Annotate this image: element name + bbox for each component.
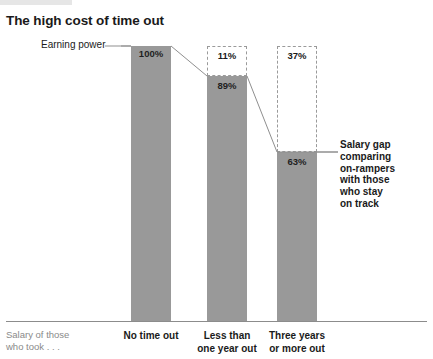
salary-gap-annotation-line-2: comparing — [340, 151, 432, 163]
bar-gap-value-three-years-or-more: 37% — [277, 50, 317, 61]
salary-gap-annotation-line-5: who stay — [340, 186, 432, 198]
bar-value-less-than-one-year: 89% — [207, 80, 247, 91]
category-label-three-years-or-more-line-2: or more out — [249, 343, 345, 356]
bar-gap-value-less-than-one-year: 11% — [207, 50, 247, 61]
category-label-three-years-or-more-line-1: Three years — [249, 330, 345, 343]
category-label-three-years-or-more: Three years or more out — [249, 330, 345, 355]
bar-value-no-time-out: 100% — [131, 48, 171, 59]
salary-gap-annotation-line-4: with those — [340, 174, 432, 186]
salary-gap-annotation-line-3: on-rampers — [340, 163, 432, 175]
bar-value-three-years-or-more: 63% — [277, 156, 317, 167]
salary-gap-annotation: Salary gap comparing on-rampers with tho… — [340, 139, 432, 210]
axis-baseline — [6, 321, 427, 322]
salary-gap-annotation-line-1: Salary gap — [340, 139, 432, 151]
bar-solid-three-years-or-more — [277, 152, 317, 321]
earning-power-label: Earning power — [41, 39, 105, 50]
salary-gap-annotation-line-6: on track — [340, 198, 432, 210]
axis-note: Salary of those who took . . . — [6, 329, 116, 353]
chart-plot-area: 100% 11% 89% 37% 63% Earning power Salar… — [0, 0, 433, 359]
bar-solid-less-than-one-year — [207, 76, 247, 321]
axis-note-line-1: Salary of those — [6, 329, 116, 341]
bar-solid-no-time-out — [131, 46, 171, 321]
axis-note-line-2: who took . . . — [6, 341, 116, 353]
bar-gap-three-years-or-more — [277, 46, 317, 152]
